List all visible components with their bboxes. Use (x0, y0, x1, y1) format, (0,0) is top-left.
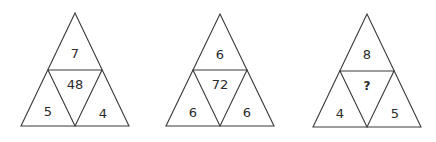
left-value: 6 (189, 105, 197, 120)
top-value: 8 (363, 47, 371, 62)
top-value: 7 (71, 46, 79, 61)
left-value: 5 (44, 104, 52, 119)
right-value: 6 (243, 105, 251, 120)
top-value: 6 (216, 47, 224, 62)
unknown-value: ? (364, 79, 371, 93)
right-value: 5 (391, 106, 399, 121)
number-triangle-puzzle: 7 48 5 4 6 72 6 6 8 ? 4 5 (0, 0, 436, 142)
left-value: 4 (336, 106, 344, 121)
right-value: 4 (99, 106, 107, 121)
center-value: 48 (67, 77, 84, 92)
triangle-3: 8 ? 4 5 (313, 14, 421, 127)
triangle-2: 6 72 6 6 (166, 14, 274, 126)
center-value: 72 (212, 77, 229, 92)
triangle-1: 7 48 5 4 (21, 13, 129, 126)
